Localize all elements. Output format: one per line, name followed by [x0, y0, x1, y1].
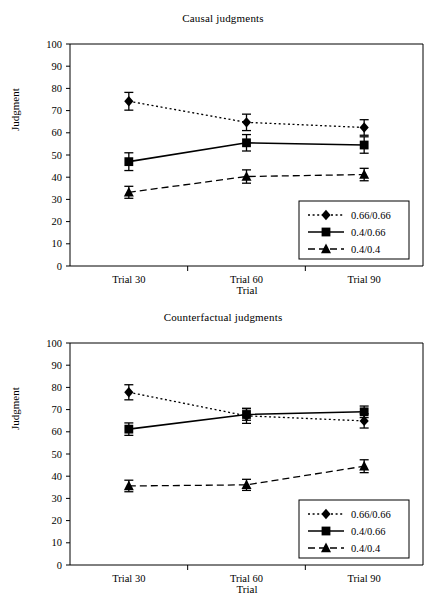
- data-marker-square: [242, 410, 251, 419]
- x-tick-label: Trial 60: [230, 573, 263, 584]
- x-tick-label: Trial 60: [230, 274, 263, 285]
- series-0-4-0-4: [124, 460, 369, 492]
- y-tick-label: 30: [52, 493, 63, 504]
- legend-label: 0.4/0.4: [351, 244, 381, 255]
- y-tick-label: 80: [52, 382, 63, 393]
- data-marker-square: [124, 157, 133, 166]
- y-tick-label: 80: [52, 83, 63, 94]
- x-tick-label: Trial 90: [348, 573, 381, 584]
- y-tick-label: 60: [52, 127, 63, 138]
- x-tick-label: Trial 90: [348, 274, 381, 285]
- y-tick-label: 0: [57, 261, 62, 272]
- y-tick-label: 20: [52, 216, 63, 227]
- series-0-4-0-66: [124, 135, 368, 171]
- data-marker-triangle: [359, 461, 369, 471]
- legend-label: 0.66/0.66: [351, 509, 391, 520]
- x-axis-ticks: Trial 30Trial 60Trial 90: [112, 565, 381, 584]
- data-marker-diamond: [124, 96, 133, 106]
- y-tick-label: 50: [52, 150, 63, 161]
- series-0-4-0-4: [124, 168, 369, 198]
- y-tick-label: 0: [57, 560, 62, 571]
- data-marker-square: [242, 138, 251, 147]
- y-tick-label: 90: [52, 61, 63, 72]
- chart-legend: 0.66/0.660.4/0.660.4/0.4: [299, 201, 409, 259]
- y-tick-label: 30: [52, 194, 63, 205]
- x-tick-label: Trial 30: [112, 573, 145, 584]
- legend-label: 0.4/0.66: [351, 526, 385, 537]
- data-marker-square: [360, 407, 369, 416]
- legend-label: 0.4/0.66: [351, 227, 385, 238]
- data-marker-square: [124, 425, 133, 434]
- chart-plot-causal: 0102030405060708090100Trial 30Trial 60Tr…: [0, 0, 446, 299]
- legend-label: 0.66/0.66: [351, 210, 391, 221]
- chart-panel-counterfactual: Counterfactual judgments Judgment Trial …: [0, 299, 446, 598]
- y-tick-label: 20: [52, 515, 63, 526]
- data-marker-diamond: [242, 117, 251, 127]
- legend-label: 0.4/0.4: [351, 543, 381, 554]
- y-axis-ticks: 0102030405060708090100: [46, 338, 70, 571]
- y-tick-label: 60: [52, 426, 63, 437]
- series-0-4-0-66: [124, 406, 368, 435]
- figure-page: Causal judgments Judgment Trial 01020304…: [0, 0, 446, 598]
- series-0-66-0-66: [124, 92, 369, 135]
- chart-panel-causal: Causal judgments Judgment Trial 01020304…: [0, 0, 446, 299]
- y-tick-label: 50: [52, 449, 63, 460]
- data-marker-diamond: [360, 122, 369, 132]
- y-tick-label: 40: [52, 471, 63, 482]
- y-tick-label: 10: [52, 537, 63, 548]
- y-tick-label: 90: [52, 360, 63, 371]
- chart-plot-counterfactual: 0102030405060708090100Trial 30Trial 60Tr…: [0, 299, 446, 598]
- y-tick-label: 70: [52, 404, 63, 415]
- data-marker-diamond: [124, 387, 133, 397]
- y-tick-label: 100: [46, 338, 62, 349]
- y-axis-ticks: 0102030405060708090100: [46, 39, 70, 272]
- y-tick-label: 70: [52, 105, 63, 116]
- chart-legend: 0.66/0.660.4/0.660.4/0.4: [299, 500, 409, 558]
- series-0-66-0-66: [124, 385, 369, 428]
- x-tick-label: Trial 30: [112, 274, 145, 285]
- data-marker-square: [322, 228, 331, 237]
- y-tick-label: 10: [52, 238, 63, 249]
- data-marker-square: [322, 527, 331, 536]
- y-tick-label: 40: [52, 172, 63, 183]
- data-marker-square: [360, 141, 369, 150]
- y-tick-label: 100: [46, 39, 62, 50]
- data-marker-triangle: [359, 169, 369, 179]
- x-axis-ticks: Trial 30Trial 60Trial 90: [112, 266, 381, 285]
